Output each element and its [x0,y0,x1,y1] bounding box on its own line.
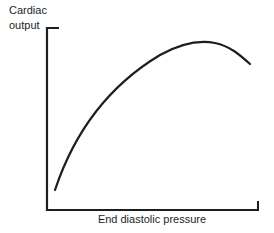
x-axis-label: End diastolic pressure [0,213,274,225]
cardiac-output-curve [55,42,250,190]
chart-plot [0,0,274,233]
x-axis [47,201,258,210]
